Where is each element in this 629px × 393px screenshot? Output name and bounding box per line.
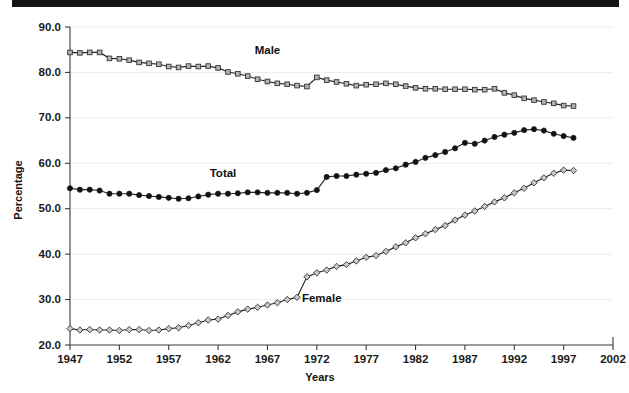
data-point <box>433 153 438 158</box>
data-point <box>344 173 349 178</box>
gridlines <box>70 27 613 300</box>
data-point <box>482 138 487 143</box>
data-point <box>315 75 320 80</box>
series-line-female <box>70 170 574 330</box>
data-point <box>87 187 92 192</box>
data-point <box>206 64 211 69</box>
data-point <box>156 327 162 333</box>
data-point <box>147 61 152 66</box>
data-point <box>452 217 458 223</box>
data-point <box>245 306 251 312</box>
data-point <box>551 101 556 106</box>
data-point <box>215 191 220 196</box>
y-tick-label: 30.0 <box>39 293 61 305</box>
data-point <box>304 274 310 280</box>
data-point <box>511 190 517 196</box>
data-point <box>512 130 517 135</box>
data-point <box>570 167 576 173</box>
data-point <box>541 175 547 181</box>
data-point <box>323 267 329 273</box>
series-female <box>67 167 577 334</box>
data-point <box>324 174 329 179</box>
data-point <box>127 58 132 63</box>
data-point <box>482 87 487 92</box>
data-point <box>186 196 191 201</box>
data-point <box>146 193 151 198</box>
data-point <box>87 326 93 332</box>
data-point <box>185 322 191 328</box>
data-point <box>472 141 477 146</box>
data-point <box>463 87 468 92</box>
data-point <box>502 91 507 96</box>
data-point <box>146 327 152 333</box>
data-point <box>531 127 536 132</box>
data-point <box>235 309 241 315</box>
data-point <box>255 77 260 82</box>
series-line-male <box>70 52 574 106</box>
data-point <box>443 87 448 92</box>
data-point <box>423 155 428 160</box>
data-point <box>423 86 428 91</box>
x-tick-label: 1982 <box>403 353 429 365</box>
data-point <box>491 199 497 205</box>
y-tick-label: 20.0 <box>39 339 61 351</box>
data-point <box>561 103 566 108</box>
data-point <box>285 82 290 87</box>
data-point <box>333 263 339 269</box>
data-point <box>512 93 517 98</box>
data-point <box>571 104 576 109</box>
data-point <box>245 190 250 195</box>
chart-page: 20.030.040.050.060.070.080.090.0 1947195… <box>0 0 629 393</box>
data-point <box>305 84 310 89</box>
data-point <box>413 159 418 164</box>
data-point <box>67 186 72 191</box>
data-point <box>394 82 399 87</box>
data-point <box>226 70 231 75</box>
data-point <box>235 191 240 196</box>
data-point <box>186 64 191 69</box>
data-point <box>107 56 112 61</box>
data-point <box>216 66 221 71</box>
data-point <box>166 64 171 69</box>
data-point <box>393 166 398 171</box>
data-point <box>443 149 448 154</box>
data-point <box>97 50 102 55</box>
y-tick-label: 80.0 <box>39 66 61 78</box>
data-point <box>117 57 122 62</box>
data-point <box>561 133 566 138</box>
x-tick-label: 1957 <box>156 353 182 365</box>
y-tick-label: 60.0 <box>39 157 61 169</box>
x-tick-label: 1967 <box>255 353 281 365</box>
y-tick-label: 70.0 <box>39 111 61 123</box>
data-point <box>137 60 142 65</box>
data-point <box>294 191 299 196</box>
x-tick-label: 1992 <box>501 353 527 365</box>
data-point <box>117 191 122 196</box>
x-tick-label: 1987 <box>452 353 478 365</box>
data-point <box>275 190 280 195</box>
data-point <box>412 235 418 241</box>
data-point <box>254 304 260 310</box>
data-point <box>166 195 171 200</box>
x-tick-label: 1947 <box>57 353 83 365</box>
data-point <box>195 320 201 326</box>
data-point <box>205 317 211 323</box>
data-point <box>245 74 250 79</box>
data-point <box>521 185 527 191</box>
data-point <box>304 190 309 195</box>
y-axis-title: Percentage <box>12 160 24 219</box>
data-point <box>492 86 497 91</box>
data-point <box>354 172 359 177</box>
data-point <box>265 79 270 84</box>
data-point <box>225 191 230 196</box>
data-point <box>363 254 369 260</box>
data-point <box>225 312 231 318</box>
data-point <box>413 86 418 91</box>
data-point <box>166 325 172 331</box>
data-point <box>314 270 320 276</box>
data-point <box>472 87 477 92</box>
data-point <box>67 325 73 331</box>
data-point <box>275 81 280 86</box>
data-point <box>274 300 280 306</box>
line-chart: 20.030.040.050.060.070.080.090.0 1947195… <box>0 0 629 393</box>
